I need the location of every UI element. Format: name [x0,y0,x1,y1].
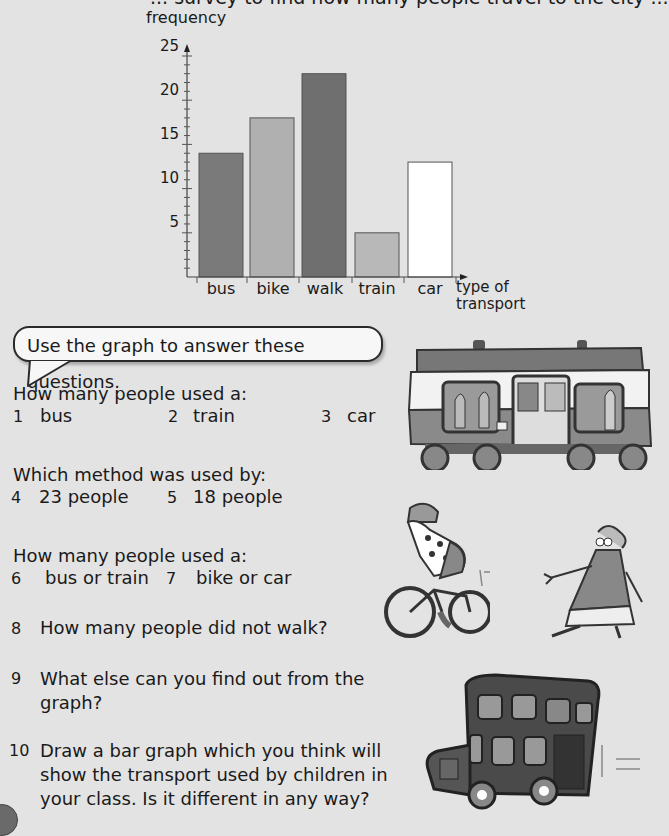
question-text: bus or train [45,567,149,588]
x-axis-label-line1: type of [456,279,525,296]
question-number: 2 [168,407,193,426]
question-7: 7bike or car [166,567,291,588]
question-number: 10 [9,739,40,763]
question-text-line: graph? [40,691,364,715]
question-5: 518 people [167,486,283,507]
question-group-3-prompt: How many people used a: [13,545,247,566]
question-6: 6bus or train [11,567,149,588]
x-tick-label-bus: bus [196,279,246,298]
question-3: 3car [321,405,375,426]
question-number: 1 [13,407,40,426]
bar-car [408,162,452,277]
question-group-2-prompt: Which method was used by: [13,464,266,485]
question-number: 7 [166,569,196,588]
question-2: 2train [168,405,235,426]
y-tick-label: 15 [153,125,179,143]
question-8: 8How many people did not walk? [11,617,328,638]
x-tick-label-walk: walk [300,279,350,298]
question-number: 8 [11,619,40,638]
question-text-line: show the transport used by children in [40,763,388,787]
bar-bus [199,153,243,277]
y-tick-label: 25 [153,37,179,55]
double-decker-bus-illustration [420,665,640,815]
x-axis-label: type of transport [456,279,525,313]
question-text: 23 people [39,486,129,507]
speech-bubble: Use the graph to answer these questions. [13,326,383,362]
y-tick-label: 10 [153,169,179,187]
question-text: car [347,405,375,426]
question-1: 1bus [13,405,72,426]
question-group-1-prompt: How many people used a: [13,383,247,404]
question-9: 9 What else can you find out from the gr… [11,667,364,715]
x-tick-label-train: train [352,279,402,298]
x-axis-label-line2: transport [456,296,525,313]
question-text-line: your class. Is it different in any way? [40,787,388,811]
question-text-line: What else can you find out from the [40,667,364,691]
question-number: 3 [321,407,347,426]
y-tick-label: 5 [153,213,179,231]
question-4: 423 people [11,486,129,507]
walking-woman-illustration [530,520,652,640]
bar-bike [250,118,294,277]
x-tick-label-car: car [405,279,455,298]
cyclist-illustration [380,500,490,640]
question-number: 5 [167,488,193,507]
bar-walk [302,74,346,277]
train-illustration [405,340,652,470]
question-10: 10 Draw a bar graph which you think will… [9,739,388,811]
bar-train [355,233,399,277]
question-text: train [193,405,235,426]
question-number: 6 [11,569,45,588]
question-text: 18 people [193,486,283,507]
question-text: bus [40,405,72,426]
x-tick-label-bike: bike [248,279,298,298]
question-text-line: Draw a bar graph which you think will [40,739,388,763]
question-text: bike or car [196,567,291,588]
question-number: 4 [11,488,39,507]
question-number: 9 [11,667,40,691]
question-text: How many people did not walk? [40,617,328,638]
chart-canvas [0,0,652,300]
y-tick-label: 20 [153,81,179,99]
